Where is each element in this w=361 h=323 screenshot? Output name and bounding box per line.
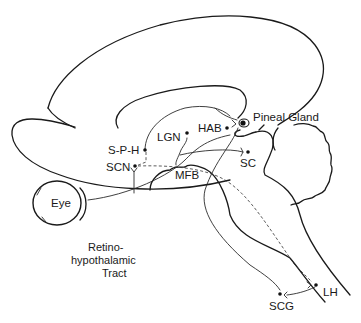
label-eye: Eye [51,197,71,209]
label-mfb: MFB [175,169,200,181]
label-tract-line2: hypothalamic [71,254,136,266]
sc-projection [180,150,243,155]
scn-nucleus [133,164,137,168]
label-sc: SC [240,157,256,169]
label-scn: SCN [106,161,130,173]
rht-synapse [131,168,137,172]
pineal-loop [235,130,256,136]
hab-projection [215,108,237,120]
lh-nucleus [314,283,318,287]
label-tract-line3: Tract [102,267,127,279]
scg-nucleus [278,292,282,296]
corpus-callosum [116,86,246,128]
label-lh: LH [323,286,338,298]
cerebrum-upper-outline [48,16,323,125]
label-tract-line1: Retino- [88,241,124,253]
brainstem-front-outline [150,165,325,302]
hab-synapse [232,120,236,127]
label-scg: SCG [269,300,294,312]
brain-pathway-diagram: Pineal Gland HAB LGN S-P-H SCN SC MFB Ey… [0,0,361,323]
cerebellum-outline [273,124,332,205]
pineal-pointer [259,125,264,130]
label-pineal-gland: Pineal Gland [253,111,319,123]
sc-nucleus [246,150,250,154]
lh-scg-connection [287,287,315,295]
tectum-outline [256,131,350,295]
label-lgn: LGN [157,131,181,143]
hab-nucleus [225,126,229,130]
brainstem-inner-outline [204,128,280,290]
scn-lh-dashed [138,166,312,282]
frontal-fold [48,108,75,128]
label-hab: HAB [198,122,222,134]
sph-nucleus [143,148,147,152]
pineal-nucleus [240,120,245,125]
label-sph: S-P-H [108,144,139,156]
lgn-nucleus [185,131,189,135]
